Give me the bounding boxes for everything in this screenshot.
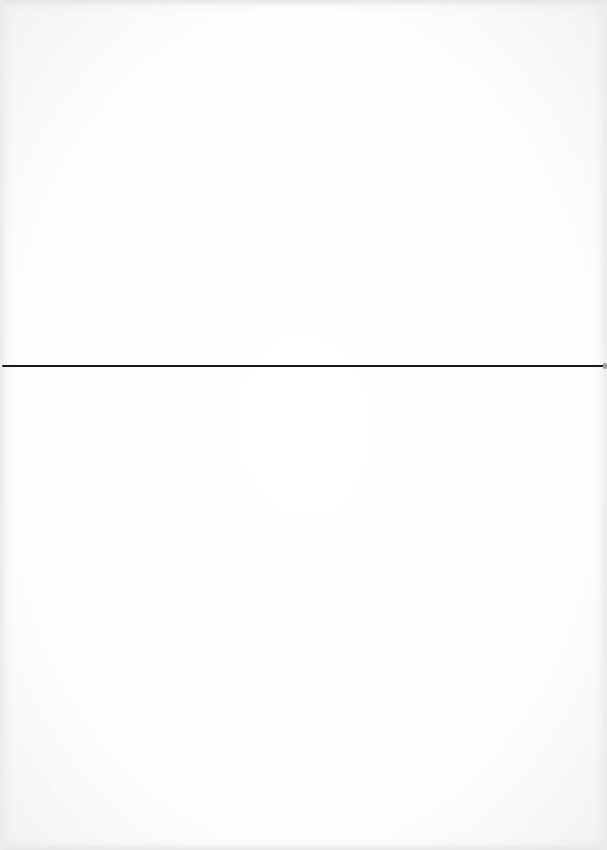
horizontal-rule-end-mark [603,363,607,369]
document-page [0,0,607,850]
page-edge-top [0,0,607,6]
horizontal-rule [2,365,605,367]
page-edge-right [599,0,607,850]
page-edge-left [0,0,8,850]
page-edge-bottom [0,844,607,850]
